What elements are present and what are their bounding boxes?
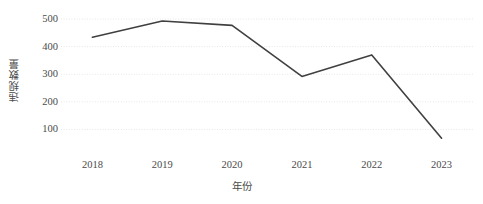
x-tick-label: 2021 [291, 158, 312, 172]
x-tick-label: 2020 [222, 158, 243, 172]
x-axis-title: 年份 [0, 178, 483, 193]
series-line [92, 21, 441, 138]
x-tick-label: 2022 [361, 158, 382, 172]
plot-area [61, 8, 473, 157]
x-axis-tick-labels: 201820192020202120222023 [61, 158, 473, 174]
y-tick-label: 400 [24, 41, 58, 52]
y-tick-label: 100 [24, 124, 58, 135]
y-tick-label: 500 [24, 14, 58, 25]
x-tick-label: 2018 [82, 158, 103, 172]
series-group [92, 21, 441, 138]
y-axis-tick-labels: 100200300400500 [20, 0, 58, 160]
y-tick-label: 200 [24, 97, 58, 108]
line-chart: 违规数量 100200300400500 2018201920202021202… [0, 0, 483, 204]
x-tick-label: 2023 [431, 158, 452, 172]
y-axis-title-text: 违规数量 [6, 58, 21, 102]
x-axis-title-text: 年份 [232, 180, 252, 192]
gridlines [61, 19, 473, 129]
plot-svg [61, 8, 473, 157]
x-tick-label: 2019 [152, 158, 173, 172]
y-tick-label: 300 [24, 69, 58, 80]
